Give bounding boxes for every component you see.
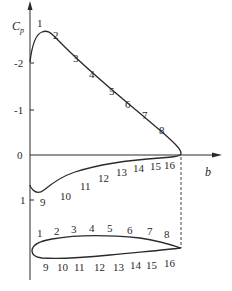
airfoil-label: 3 <box>71 223 77 235</box>
point-label: 16 <box>164 159 176 171</box>
y-axis-label-sub: p <box>19 26 24 35</box>
airfoil-label: 4 <box>89 222 95 234</box>
y-axis-arrow-icon <box>28 1 33 10</box>
airfoil-label: 10 <box>57 261 69 273</box>
point-label: 12 <box>98 172 109 184</box>
x-axis-arrow-icon <box>212 153 222 158</box>
airfoil-label: 11 <box>74 261 85 273</box>
airfoil-shape <box>32 236 181 259</box>
point-label: 6 <box>125 98 131 110</box>
airfoil-label: 7 <box>147 225 153 237</box>
point-label: 9 <box>40 196 46 208</box>
airfoil-label: 2 <box>54 225 60 237</box>
airfoil-label: 9 <box>43 261 49 273</box>
x-axis-label: b <box>205 165 211 179</box>
y-tick-label: 1 <box>20 194 26 206</box>
y-tick-label: -2 <box>14 57 23 69</box>
airfoil-label: 6 <box>127 224 133 236</box>
point-label: 7 <box>142 109 148 121</box>
airfoil-label: 8 <box>164 228 170 240</box>
y-tick-label: 0 <box>17 149 23 161</box>
airfoil-label: 12 <box>94 261 105 273</box>
airfoil-label: 16 <box>164 257 176 269</box>
airfoil-label: 5 <box>107 222 113 234</box>
cp-diagram: C p -2 -1 0 1 b 1 2 3 4 5 6 7 8 9 10 11 … <box>0 0 232 291</box>
point-label: 14 <box>133 162 145 174</box>
point-label: 11 <box>80 180 91 192</box>
point-label: 2 <box>53 29 59 41</box>
airfoil-label: 1 <box>37 227 43 239</box>
point-label: 13 <box>116 166 128 178</box>
point-label: 10 <box>60 190 72 202</box>
point-label: 15 <box>150 160 162 172</box>
point-label: 5 <box>109 85 115 97</box>
point-label: 3 <box>73 52 79 64</box>
airfoil-label: 14 <box>130 259 142 271</box>
point-label: 8 <box>159 124 165 136</box>
point-label: 4 <box>89 68 95 80</box>
point-label: 1 <box>37 17 43 29</box>
y-tick-label: -1 <box>14 104 23 116</box>
upper-surface-curve <box>30 31 181 155</box>
airfoil-label: 13 <box>113 261 125 273</box>
airfoil-label: 15 <box>146 259 158 271</box>
